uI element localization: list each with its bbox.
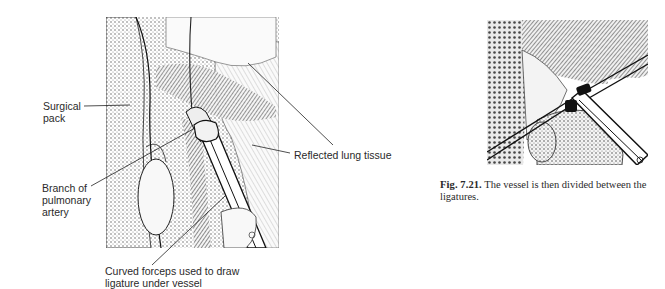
figure-caption: Fig. 7.21. The vessel is then divided be… xyxy=(440,179,665,203)
label-line: Curved forceps used to draw xyxy=(105,265,239,277)
label-line: ligature under vessel xyxy=(105,277,239,289)
label-line: pack xyxy=(43,112,81,124)
label-line: artery xyxy=(42,206,91,218)
label-line: pulmonary xyxy=(42,194,91,206)
label-curved-forceps: Curved forceps used to draw ligature und… xyxy=(105,265,239,289)
vessel-division-drawing xyxy=(487,20,648,165)
label-line: Surgical xyxy=(43,100,81,112)
surgical-illustration-right xyxy=(487,20,648,165)
leader-lines xyxy=(0,0,400,288)
label-line: Branch of xyxy=(42,182,91,194)
label-reflected-lung-tissue: Reflected lung tissue xyxy=(294,149,391,161)
label-branch-pulmonary-artery: Branch of pulmonary artery xyxy=(42,182,91,218)
label-surgical-pack: Surgical pack xyxy=(43,100,81,124)
figure-number: Fig. 7.21. xyxy=(440,179,482,190)
